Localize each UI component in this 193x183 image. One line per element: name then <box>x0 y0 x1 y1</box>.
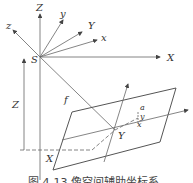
z-axis-line <box>13 30 40 57</box>
z-axis-label: z <box>5 20 12 31</box>
Y-axis-label: Y <box>88 20 96 31</box>
Z-axis-label: Z <box>35 2 44 13</box>
point-a-label: a <box>140 103 145 112</box>
projection-ray <box>40 57 115 130</box>
ground-Y-label: Y <box>118 130 126 141</box>
figure-caption: 图 4-13 像空间辅助坐标系 <box>28 175 159 183</box>
height-label: Z <box>11 99 20 110</box>
image-x-label: x <box>137 120 142 129</box>
Y-axis-line <box>40 32 82 57</box>
plane-X-line <box>62 110 188 140</box>
focal-label: f <box>63 94 70 105</box>
ground-X-label: X <box>45 153 54 164</box>
X-axis-label: X <box>166 52 175 63</box>
x-axis-label: x <box>101 32 107 43</box>
y-axis-label: y <box>59 8 66 19</box>
origin-label: S <box>31 54 38 65</box>
coordinate-diagram: Z z y Y x X S Z f X Y a y x 图 4-13 像空间辅助… <box>0 0 193 183</box>
